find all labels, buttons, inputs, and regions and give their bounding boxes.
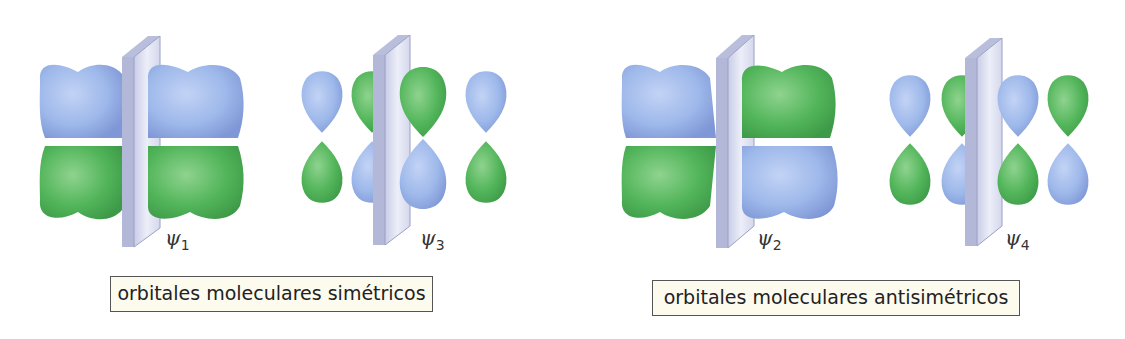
caption-antisymmetric: orbitales moleculares antisimétricos (652, 280, 1020, 316)
psi-index: 3 (436, 237, 445, 253)
psi-symbol: ψ (165, 226, 181, 250)
psi-index: 4 (1021, 237, 1030, 253)
label-psi3: ψ3 (420, 226, 445, 253)
psi-index: 1 (181, 237, 190, 253)
orbital-psi3 (302, 35, 507, 245)
orbital-psi2 (622, 35, 838, 248)
orbital-psi4 (890, 38, 1089, 246)
orbital-psi1 (40, 36, 244, 247)
psi-index: 2 (773, 237, 782, 253)
label-psi4: ψ4 (1005, 226, 1030, 253)
psi-symbol: ψ (757, 226, 773, 250)
label-psi1: ψ1 (165, 226, 190, 253)
psi-symbol: ψ (1005, 226, 1021, 250)
label-psi2: ψ2 (757, 226, 782, 253)
caption-symmetric: orbitales moleculares simétricos (110, 276, 433, 312)
psi-symbol: ψ (420, 226, 436, 250)
